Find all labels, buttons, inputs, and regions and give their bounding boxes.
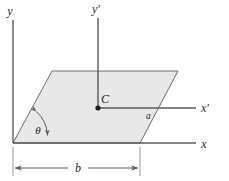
x-prime-axis-label: x′ — [200, 101, 209, 115]
centroid-point-marker — [95, 105, 100, 110]
angle-theta-label: θ — [35, 124, 41, 136]
x-axis-label: x — [200, 137, 207, 151]
figure-container: y y′ x x′ C a b θ — [0, 0, 229, 181]
y-axis-label: y — [6, 4, 13, 18]
base-b-label: b — [75, 161, 81, 175]
centroid-label: C — [101, 92, 110, 106]
side-a-label: a — [146, 111, 151, 121]
parallelogram-plate-diagram: y y′ x x′ C a b θ — [0, 0, 229, 181]
y-prime-axis-label: y′ — [91, 2, 100, 16]
